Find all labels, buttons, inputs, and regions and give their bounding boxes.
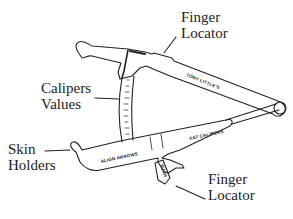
calipers-values-label: Calipers Values [41, 80, 91, 112]
lower-arm-text: FAT CALIPERS [189, 129, 224, 141]
skin-holders-line2: Holders [8, 157, 56, 173]
finger-locator-top-line1: Finger [181, 9, 228, 25]
finger-locator-top-pointer [164, 37, 176, 53]
upper-arm [76, 41, 285, 116]
align-arrows-text: ALIGN ARROWS [100, 151, 138, 164]
finger-locator-top-label: Finger Locator [181, 9, 228, 41]
push-text: PUSH [159, 164, 168, 178]
calipers-values-line2: Values [41, 96, 91, 112]
skin-holders-label: Skin Holders [8, 141, 56, 173]
calipers-values-pointer [95, 98, 119, 99]
skin-holders-line1: Skin [8, 141, 56, 157]
finger-locator-top-line2: Locator [181, 25, 228, 41]
finger-locator-bottom-pointer [176, 186, 205, 199]
finger-locator-bottom-label: Finger Locator [208, 171, 255, 203]
calipers-values-line1: Calipers [41, 80, 91, 96]
scale-bar [119, 76, 134, 142]
upper-arm-text: TONY LITTLE'S [186, 72, 221, 90]
finger-locator-bottom-line1: Finger [208, 171, 255, 187]
finger-locator-bottom-line2: Locator [208, 187, 255, 203]
